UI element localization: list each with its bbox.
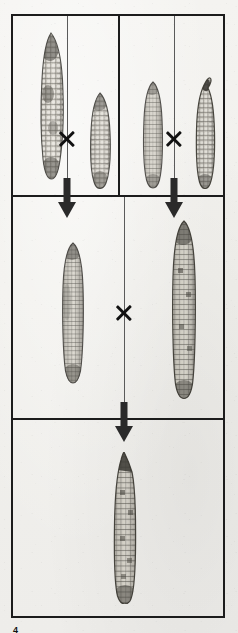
frame-right-border <box>223 14 225 618</box>
top-row-center-divider <box>118 14 120 196</box>
arrow-head <box>115 426 133 442</box>
arrow-shaft <box>171 178 178 204</box>
frame-left-border <box>11 14 13 618</box>
arrow-shaft <box>121 402 128 428</box>
arrow-head <box>58 202 76 218</box>
breeding-diagram-figure: 4 <box>11 14 225 618</box>
inbred-parent-a2 <box>86 92 115 189</box>
arrow-head <box>165 202 183 218</box>
arrow-cross-b-to-f1-right <box>165 178 183 218</box>
page-number: 4 <box>13 626 18 633</box>
cross-operator-f1 <box>114 303 134 323</box>
f1-hybrid-left <box>57 242 89 384</box>
inbred-parent-a1 <box>36 32 68 180</box>
arrow-f1-to-double-cross <box>115 402 133 442</box>
f1-hybrid-right <box>166 220 202 400</box>
double-cross-hybrid <box>107 452 143 604</box>
cross-operator-b <box>164 129 184 149</box>
frame-bottom-border <box>11 616 225 618</box>
cross-operator-a <box>57 129 77 149</box>
arrow-cross-a-to-f1-left <box>58 178 76 218</box>
arrow-shaft <box>64 178 71 204</box>
pedigree-line-cross-b <box>174 16 175 193</box>
inbred-parent-b2 <box>191 76 220 189</box>
inbred-parent-b1 <box>139 81 167 189</box>
